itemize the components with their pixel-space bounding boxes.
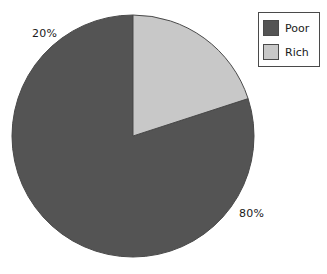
legend-label-poor: Poor: [285, 22, 309, 35]
pie-slices: [12, 15, 254, 257]
chart-legend: Poor Rich: [258, 12, 320, 67]
pie-slice-label-rich: 20%: [32, 27, 57, 40]
legend-swatch-rich-icon: [263, 44, 279, 60]
legend-item-rich[interactable]: Rich: [263, 41, 319, 63]
legend-item-poor[interactable]: Poor: [263, 17, 319, 39]
legend-label-rich: Rich: [285, 46, 309, 59]
legend-swatch-poor-icon: [263, 20, 279, 36]
pie-slice-label-poor: 80%: [239, 207, 264, 220]
pie-chart-figure: 20% 80% Poor Rich: [0, 0, 327, 274]
